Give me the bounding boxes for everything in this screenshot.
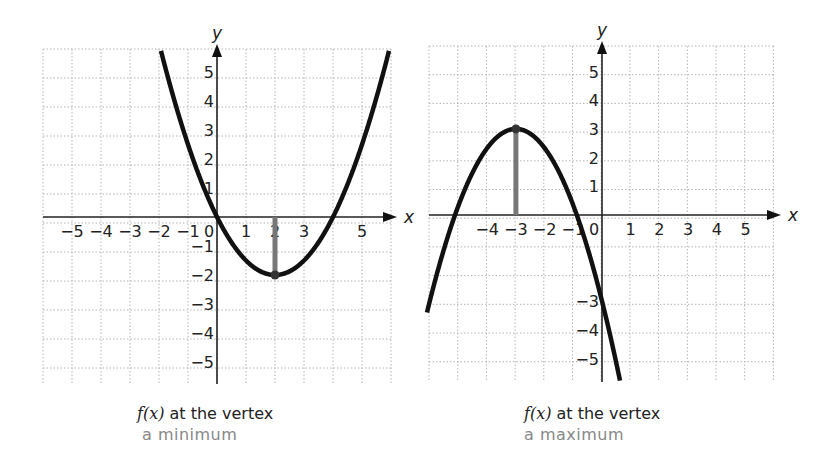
y-tick-label: 3 xyxy=(204,121,214,140)
function-label: f(x) xyxy=(524,404,551,423)
minimum-parabola-graph: xy−5−4−3−2−10123554321−1−2−3−4−5 xyxy=(0,0,818,462)
x-tick-label: −3 xyxy=(118,222,142,241)
y-axis-label: y xyxy=(211,23,223,43)
left-caption-line1: f(x) at the vertex xyxy=(137,404,273,423)
x-tick-label: 5 xyxy=(357,222,367,241)
y-tick-label: 4 xyxy=(204,92,214,111)
x-tick-label: −2 xyxy=(147,222,171,241)
y-tick-label: 2 xyxy=(204,150,214,169)
x-tick-label: −5 xyxy=(60,222,84,241)
y-tick-label: −4 xyxy=(190,324,214,343)
right-caption-line1: f(x) at the vertex xyxy=(524,404,660,423)
y-tick-label: −5 xyxy=(190,353,214,372)
x-tick-label: −4 xyxy=(89,222,113,241)
x-axis-label: x xyxy=(403,207,415,227)
x-axis-arrow-icon xyxy=(383,212,397,222)
caption-text: at the vertex xyxy=(164,404,273,423)
x-tick-label: 1 xyxy=(241,222,251,241)
y-tick-label: −1 xyxy=(190,237,214,256)
y-tick-label: −2 xyxy=(190,266,214,285)
y-axis-arrow-icon xyxy=(212,44,222,57)
y-tick-label: 5 xyxy=(204,63,214,82)
caption-text: at the vertex xyxy=(551,404,660,423)
function-label: f(x) xyxy=(137,404,164,423)
right-caption-line2: a maximum xyxy=(524,425,624,444)
left-caption-line2: a minimum xyxy=(142,425,237,444)
vertex-point xyxy=(271,271,280,280)
x-tick-label: 3 xyxy=(299,222,309,241)
y-tick-label: −3 xyxy=(190,295,214,314)
